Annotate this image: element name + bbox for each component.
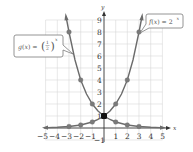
data-point: [78, 78, 83, 83]
g-label: g(x) =: [18, 43, 37, 51]
x-tick-label: −2: [73, 132, 84, 141]
y-axis-label: y: [100, 3, 105, 11]
y-tick-label: 5: [97, 64, 102, 73]
g-callout: g(x) = ( 1 2 ) x: [14, 35, 73, 57]
x-tick-label: −4: [49, 132, 60, 141]
data-point: [67, 30, 72, 35]
data-point: [125, 78, 130, 83]
y-tick-label: 6: [97, 52, 102, 61]
x-tick-label: 5: [160, 132, 165, 141]
x-tick-label: 1: [114, 132, 119, 141]
y-tick-label: 8: [97, 28, 102, 37]
y-tick-label: −1: [94, 136, 105, 145]
g-label-numerator: 1: [46, 40, 49, 45]
x-tick-label: −5: [37, 132, 48, 141]
g-label-lparen: (: [41, 40, 45, 53]
data-point: [90, 102, 95, 107]
data-point: [90, 120, 95, 125]
g-curve-right-arrow-icon: [160, 126, 166, 130]
x-tick-label: −3: [61, 132, 72, 141]
g-label-denominator: 2: [46, 46, 49, 51]
f-curve-arrow-icon: [140, 13, 144, 21]
data-point: [113, 102, 118, 107]
x-axis-label: x: [173, 124, 177, 131]
y-tick-label: 9: [97, 16, 102, 25]
x-tick-label: 3: [137, 132, 142, 141]
y-tick-label: 4: [97, 76, 102, 85]
x-tick-label: 4: [149, 132, 154, 141]
data-point: [113, 120, 118, 125]
y-tick-label: 3: [97, 88, 102, 97]
f-curve-left-arrow-icon: [42, 126, 48, 130]
x-axis-arrow-icon: [166, 126, 171, 130]
f-label: f(x) = 2: [148, 18, 173, 26]
y-tick-label: 7: [97, 40, 102, 49]
f-callout: f(x) = 2 x: [140, 14, 183, 33]
y-tick-label: 2: [97, 100, 102, 109]
intersection-point: [101, 113, 107, 119]
data-point: [125, 123, 130, 128]
g-curve-arrow-icon: [65, 13, 69, 21]
data-point: [137, 124, 142, 129]
data-point: [67, 124, 72, 129]
x-tick-label: 2: [125, 132, 130, 141]
data-point: [78, 123, 83, 128]
exponential-functions-chart: x y −5 −4 −3 −2 −1 1 2 3 4 5 9 8 7 6 5 4…: [0, 0, 193, 152]
y-tick-labels: 9 8 7 6 5 4 3 2 1 −1: [94, 16, 105, 145]
y-axis-arrow-icon: [102, 11, 106, 16]
